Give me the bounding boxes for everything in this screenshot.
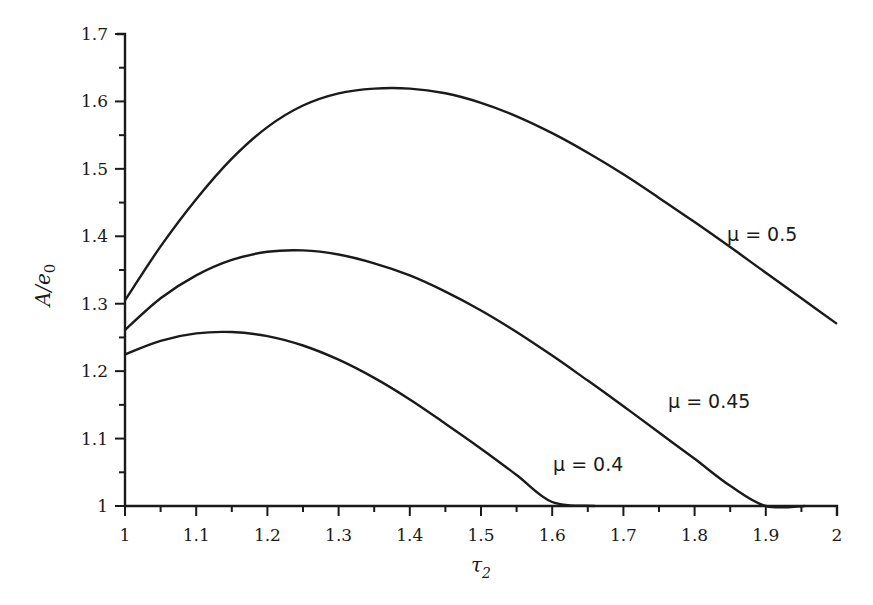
y-tick-label: 1.2 <box>81 361 108 381</box>
x-tick-label: 1 <box>120 525 131 545</box>
x-tick-label: 1.5 <box>467 525 494 545</box>
x-tick-label: 1.3 <box>325 525 352 545</box>
curve-series-0 <box>125 88 837 324</box>
x-tick-label: 1.1 <box>183 525 210 545</box>
x-tick-label: 1.6 <box>539 525 566 545</box>
x-tick-label: 1.4 <box>396 525 423 545</box>
x-tick-label: 1.9 <box>752 525 779 545</box>
y-tick-label: 1.7 <box>81 24 108 44</box>
line-chart: 11.11.21.31.41.51.61.7 11.11.21.31.41.51… <box>0 0 873 605</box>
curves <box>125 88 837 508</box>
curve-label-mu-0.4: μ = 0.4 <box>553 453 623 475</box>
y-tick-label: 1.6 <box>81 91 108 111</box>
y-axis-title: A/e0 <box>31 264 59 309</box>
x-axis-ticks: 11.11.21.31.41.51.61.71.81.92 <box>120 506 843 545</box>
y-axis-ticks: 11.11.21.31.41.51.61.7 <box>81 24 125 516</box>
curve-series-2 <box>125 332 595 506</box>
curve-label-mu-0.45: μ = 0.45 <box>668 390 750 412</box>
curve-series-1 <box>125 250 805 507</box>
x-tick-label: 1.7 <box>610 525 637 545</box>
x-tick-label: 1.8 <box>681 525 708 545</box>
y-tick-label: 1.3 <box>81 294 108 314</box>
y-tick-label: 1.4 <box>81 226 108 246</box>
y-tick-label: 1.5 <box>81 159 108 179</box>
y-tick-label: 1.1 <box>81 429 108 449</box>
x-axis-title: τ2 <box>471 553 491 581</box>
curve-label-mu-0.5: μ = 0.5 <box>727 223 797 245</box>
y-tick-label: 1 <box>97 496 108 516</box>
x-tick-label: 2 <box>832 525 843 545</box>
x-tick-label: 1.2 <box>254 525 281 545</box>
